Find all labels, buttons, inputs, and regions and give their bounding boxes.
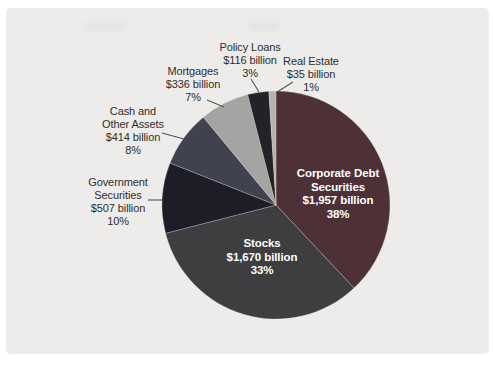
pie-label-cash-and-other-assets: Cash andOther Assets$414 billion8% bbox=[102, 105, 164, 157]
label-line: Policy Loans bbox=[219, 41, 280, 54]
label-line: 7% bbox=[166, 91, 220, 104]
pie-label-real-estate: Real Estate$35 billion1% bbox=[283, 55, 339, 94]
label-line: 10% bbox=[88, 215, 148, 228]
pie-label-government-securities: GovernmentSecurities$507 billion10% bbox=[88, 176, 148, 228]
pie-label-mortgages: Mortgages$336 billion7% bbox=[166, 65, 220, 104]
label-line: 3% bbox=[219, 67, 280, 80]
label-line: Securities bbox=[297, 181, 379, 195]
label-line: 33% bbox=[227, 264, 298, 278]
label-line: $507 billion bbox=[88, 202, 148, 215]
label-line: Other Assets bbox=[102, 118, 164, 131]
label-line: Government bbox=[88, 176, 148, 189]
leader-line-policy-loans bbox=[251, 79, 259, 92]
label-line: Stocks bbox=[227, 237, 298, 251]
label-line: $1,957 billion bbox=[297, 194, 379, 208]
label-line: $35 billion bbox=[283, 68, 339, 81]
figure: Corporate DebtSecurities$1,957 billion38… bbox=[0, 0, 493, 366]
label-line: Cash and bbox=[102, 105, 164, 118]
leader-line-cash-and-other-assets bbox=[162, 133, 184, 139]
label-line: Real Estate bbox=[283, 55, 339, 68]
pie-label-stocks: Stocks$1,670 billion33% bbox=[227, 237, 298, 278]
label-line: Mortgages bbox=[166, 65, 220, 78]
label-line: $116 billion bbox=[219, 54, 280, 67]
label-line: $1,670 billion bbox=[227, 251, 298, 265]
pie-label-corporate-debt-securities: Corporate DebtSecurities$1,957 billion38… bbox=[297, 167, 379, 221]
pie-label-policy-loans: Policy Loans$116 billion3% bbox=[219, 41, 280, 80]
label-line: Corporate Debt bbox=[297, 167, 379, 181]
label-line: $414 billion bbox=[102, 131, 164, 144]
label-line: Securities bbox=[88, 189, 148, 202]
label-line: 1% bbox=[283, 81, 339, 94]
label-line: $336 billion bbox=[166, 78, 220, 91]
label-line: 8% bbox=[102, 144, 164, 157]
label-line: 38% bbox=[297, 208, 379, 222]
